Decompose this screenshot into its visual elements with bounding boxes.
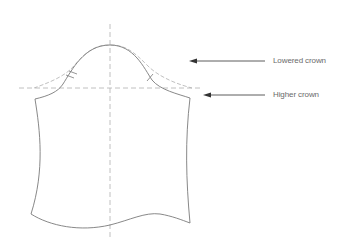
sleeve-pattern-diagram (0, 0, 339, 251)
lowered-crown-arrow (189, 59, 265, 64)
sleeve-hem (31, 214, 190, 228)
right-underarm-seam (187, 98, 190, 223)
lowered-crown-curve (35, 45, 190, 99)
higher-crown-arrow (203, 93, 265, 98)
higher-crown-curve (34, 45, 192, 88)
left-underarm-seam (31, 99, 40, 214)
lowered-crown-label: Lowered crown (273, 56, 326, 65)
higher-crown-label: Higher crown (273, 90, 319, 99)
